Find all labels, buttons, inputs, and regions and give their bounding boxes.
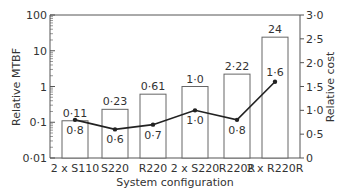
x-tick-label: 2 x S110: [51, 162, 99, 175]
x-axis-label: System configuration: [116, 176, 234, 189]
cost-point: [273, 80, 277, 84]
y2-tick-label: 0: [306, 152, 313, 165]
mtbf-value-label: 0·11: [63, 107, 88, 120]
cost-point: [151, 122, 155, 126]
mtbf-value-label: 0·23: [103, 95, 128, 108]
mtbf-value-label: 1·0: [186, 73, 204, 86]
y2-tick-label: 2·0: [306, 57, 324, 70]
y2-tick-label: 3·0: [306, 9, 324, 22]
cost-value-label: 0·8: [228, 124, 246, 137]
cost-value-label: 1·6: [266, 66, 284, 79]
mtbf-value-label: 0·61: [141, 80, 166, 93]
x-tick-label: S220: [101, 162, 129, 175]
y-tick-label: 0·01: [23, 152, 48, 165]
y2-tick-label: 1·0: [306, 104, 324, 117]
y-tick-label: 0·1: [30, 116, 48, 129]
y2-tick-label: 1·5: [306, 81, 324, 94]
y2-tick-label: 0·5: [306, 128, 324, 141]
y2-tick-label: 2·5: [306, 33, 324, 46]
cost-value-label: 0·6: [106, 133, 124, 146]
cost-point: [113, 127, 117, 131]
x-tick-label: 2 x R220R: [247, 162, 304, 175]
mtbf-value-label: 2·22: [225, 60, 250, 73]
cost-point: [193, 108, 197, 112]
mtbf-value-label: 24: [268, 23, 282, 36]
y-axis-label: Relative MTBF: [10, 48, 23, 126]
y2-axis-label: Relative cost: [324, 51, 337, 122]
x-tick-label: 2 x S220: [171, 162, 219, 175]
mtbf-bar: [262, 37, 288, 158]
y-tick-label: 1: [40, 81, 47, 94]
y-tick-label: 10: [33, 45, 47, 58]
cost-value-label: 0·7: [144, 129, 162, 142]
bars: [62, 37, 288, 158]
mtbf-bar: [224, 74, 250, 158]
x-tick-label: R220: [139, 162, 168, 175]
chart-svg: 0·010·111010000·51·01·52·02·53·0 0·112 x…: [0, 0, 345, 195]
cost-value-label: 0·8: [66, 124, 84, 137]
cost-point: [235, 118, 239, 122]
cost-value-label: 1·0: [186, 114, 204, 127]
y-tick-label: 100: [26, 9, 47, 22]
chart-container: 0·010·111010000·51·01·52·02·53·0 0·112 x…: [0, 0, 345, 195]
